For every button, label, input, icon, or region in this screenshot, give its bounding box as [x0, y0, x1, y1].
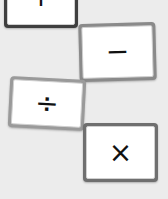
- divide-card: ÷: [8, 76, 87, 131]
- minus-card-face: −: [81, 25, 153, 79]
- times-icon: ×: [109, 139, 132, 167]
- times-card-face: ×: [86, 126, 155, 179]
- plus-icon: +: [29, 0, 52, 11]
- divide-icon: ÷: [35, 89, 60, 118]
- minus-icon: −: [105, 38, 129, 67]
- plus-card: +: [4, 0, 78, 28]
- times-card: ×: [83, 123, 158, 182]
- plus-card-face: +: [7, 0, 75, 25]
- minus-card: −: [78, 22, 156, 82]
- divide-card-face: ÷: [11, 79, 83, 128]
